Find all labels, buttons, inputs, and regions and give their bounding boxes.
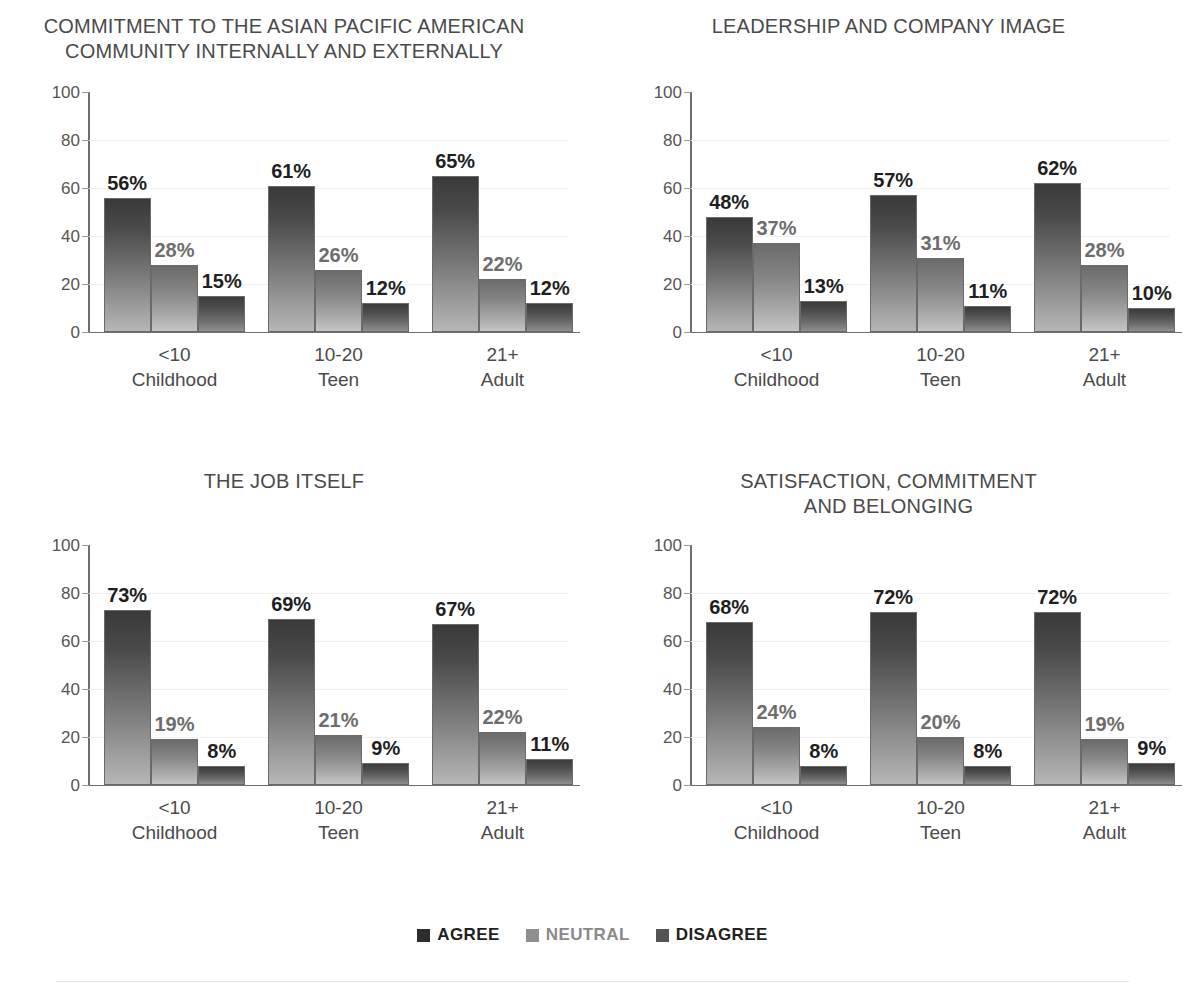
panel-title: SATISFACTION, COMMITMENT AND BELONGING xyxy=(622,469,1155,519)
y-axis-tick-label: 40 xyxy=(42,228,80,245)
x-axis-category-label: <10 Childhood xyxy=(104,342,246,392)
y-axis-tick-label: 0 xyxy=(644,777,682,794)
panel-satisfaction: SATISFACTION, COMMITMENT AND BELONGING 0… xyxy=(592,455,1185,910)
y-tick-mark xyxy=(82,92,89,93)
bar-value-label: 19% xyxy=(154,714,194,734)
y-axis-tick-label: 40 xyxy=(42,681,80,698)
bar-value-label: 8% xyxy=(973,741,1002,761)
bar-disagree xyxy=(800,766,847,785)
bar-agree xyxy=(706,217,753,332)
bar-agree xyxy=(870,195,917,332)
bar-value-label: 9% xyxy=(371,738,400,758)
y-axis-tick-label: 0 xyxy=(42,324,80,341)
bar-agree xyxy=(1034,183,1081,332)
bar-value-label: 68% xyxy=(709,597,749,617)
bar-neutral xyxy=(151,739,198,785)
bar-agree xyxy=(104,610,151,785)
bar-disagree xyxy=(1128,308,1175,332)
bar-group: 56%28%15% xyxy=(104,92,246,332)
bar-agree xyxy=(706,622,753,785)
bar-value-label: 9% xyxy=(1137,738,1166,758)
legend-item-agree: AGREE xyxy=(417,925,499,945)
y-tick-mark xyxy=(684,785,691,786)
y-axis-tick-label: 20 xyxy=(644,729,682,746)
bar-value-label: 26% xyxy=(318,245,358,265)
y-axis-tick-label: 100 xyxy=(644,537,682,554)
bar-value-label: 10% xyxy=(1132,283,1172,303)
bar-value-label: 72% xyxy=(873,587,913,607)
bar-value-label: 8% xyxy=(207,741,236,761)
legend-item-neutral: NEUTRAL xyxy=(526,925,630,945)
bar-value-label: 11% xyxy=(968,281,1007,301)
footer-divider xyxy=(56,981,1129,982)
bar-group: 61%26%12% xyxy=(268,92,410,332)
bar-disagree xyxy=(964,766,1011,785)
bar-value-label: 67% xyxy=(435,599,475,619)
bar-value-label: 69% xyxy=(271,594,311,614)
bar-value-label: 73% xyxy=(107,585,147,605)
bar-agree xyxy=(104,198,151,332)
y-tick-mark xyxy=(684,641,691,642)
y-axis-tick-label: 100 xyxy=(42,537,80,554)
bar-group: 72%20%8% xyxy=(870,545,1012,785)
legend-swatch-icon xyxy=(526,929,539,942)
bar-value-label: 31% xyxy=(920,233,960,253)
y-axis-tick-label: 40 xyxy=(644,681,682,698)
bar-disagree xyxy=(362,763,409,785)
bar-neutral xyxy=(753,727,800,785)
legend-item-disagree: DISAGREE xyxy=(656,925,768,945)
y-tick-mark xyxy=(82,140,89,141)
bar-group: 48%37%13% xyxy=(706,92,848,332)
bar-neutral xyxy=(917,258,964,332)
bar-group: 73%19%8% xyxy=(104,545,246,785)
plot-area: 02040608010056%28%15%61%26%12%65%22%12%<… xyxy=(88,92,558,332)
bar-value-label: 12% xyxy=(366,278,406,298)
bar-value-label: 37% xyxy=(756,218,796,238)
y-tick-mark xyxy=(684,284,691,285)
bar-agree xyxy=(432,176,479,332)
bar-neutral xyxy=(1081,739,1128,785)
x-axis-labels: <10 Childhood10-20 Teen21+ Adult xyxy=(692,785,1161,847)
y-axis-tick-label: 60 xyxy=(644,633,682,650)
bar-agree xyxy=(1034,612,1081,785)
x-axis-category-label: 10-20 Teen xyxy=(268,795,410,845)
bar-value-label: 11% xyxy=(530,734,569,754)
bar-value-label: 22% xyxy=(482,707,522,727)
bar-agree xyxy=(432,624,479,785)
y-axis-tick-label: 0 xyxy=(644,324,682,341)
bar-neutral xyxy=(917,737,964,785)
y-axis-tick-label: 80 xyxy=(644,132,682,149)
bar-value-label: 13% xyxy=(804,276,844,296)
y-tick-mark xyxy=(82,785,89,786)
bar-value-label: 48% xyxy=(709,192,749,212)
chart-grid: COMMITMENT TO THE ASIAN PACIFIC AMERICAN… xyxy=(0,0,1185,910)
y-axis-tick-label: 60 xyxy=(42,180,80,197)
x-axis-category-label: 10-20 Teen xyxy=(870,342,1012,392)
bar-disagree xyxy=(964,306,1011,332)
bar-agree xyxy=(870,612,917,785)
bars-container: 73%19%8%69%21%9%67%22%11% xyxy=(90,545,559,785)
legend-label: NEUTRAL xyxy=(546,925,630,945)
panel-title: LEADERSHIP AND COMPANY IMAGE xyxy=(622,14,1155,39)
y-tick-mark xyxy=(684,140,691,141)
bar-value-label: 21% xyxy=(318,710,358,730)
legend-label: AGREE xyxy=(437,925,499,945)
y-tick-mark xyxy=(82,593,89,594)
bar-disagree xyxy=(800,301,847,332)
bar-disagree xyxy=(198,296,245,332)
bar-value-label: 28% xyxy=(154,240,194,260)
panel-commitment: COMMITMENT TO THE ASIAN PACIFIC AMERICAN… xyxy=(0,0,592,455)
bar-neutral xyxy=(1081,265,1128,332)
x-axis-labels: <10 Childhood10-20 Teen21+ Adult xyxy=(90,785,559,847)
x-axis-labels: <10 Childhood10-20 Teen21+ Adult xyxy=(692,332,1161,394)
x-axis-category-label: <10 Childhood xyxy=(706,342,848,392)
bar-disagree xyxy=(1128,763,1175,785)
y-tick-mark xyxy=(684,236,691,237)
bar-disagree xyxy=(362,303,409,332)
y-axis-tick-label: 60 xyxy=(42,633,80,650)
y-tick-mark xyxy=(82,236,89,237)
y-axis-tick-label: 0 xyxy=(42,777,80,794)
y-tick-mark xyxy=(684,689,691,690)
bar-value-label: 28% xyxy=(1084,240,1124,260)
bar-neutral xyxy=(753,243,800,332)
